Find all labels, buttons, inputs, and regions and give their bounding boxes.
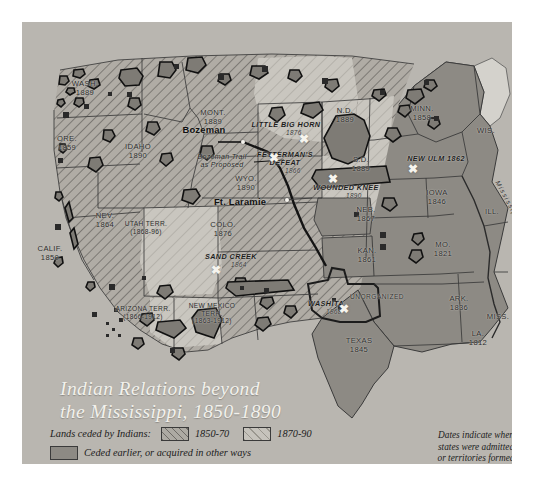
nebraska-grey bbox=[314, 198, 372, 236]
map-legend: Lands ceded by Indians: 1850-70 1870-90 … bbox=[50, 424, 402, 464]
legend-row-ceded: Lands ceded by Indians: 1850-70 1870-90 bbox=[50, 424, 402, 443]
map-plate: WASH.1889 ORE.1859 CALIF.1850 NEV.1864 I… bbox=[22, 22, 512, 464]
legend-row-ceded-earlier: Ceded earlier, or acquired in other ways bbox=[50, 443, 402, 462]
legend-swatch-ceded-earlier bbox=[50, 446, 78, 460]
legend-ceded-label: Lands ceded by Indians: bbox=[50, 428, 151, 439]
map-note: Dates indicate when states were admitted… bbox=[424, 430, 512, 464]
city-dot-ft-laramie bbox=[285, 198, 289, 202]
legend-swatch-1870-90 bbox=[243, 427, 271, 441]
ceded-1870-90-c bbox=[140, 206, 222, 296]
legend-row-reservations: Indian reservations ✖ Key battles of the… bbox=[50, 462, 402, 464]
legend-period-2: 1870-90 bbox=[277, 428, 311, 439]
map-title-line1: Indian Relations beyond bbox=[60, 377, 390, 400]
map-title-line2: the Mississippi, 1850-1890 bbox=[60, 400, 390, 423]
city-dot-bozeman bbox=[241, 140, 245, 144]
map-title: Indian Relations beyond the Mississippi,… bbox=[60, 377, 390, 423]
legend-swatch-1850-70 bbox=[161, 427, 189, 441]
map-note-line2: states were admitted bbox=[424, 442, 512, 454]
map-note-line3: or territories formed bbox=[424, 453, 512, 464]
legend-period-1: 1850-70 bbox=[195, 428, 229, 439]
map-screenshot: WASH.1889 ORE.1859 CALIF.1850 NEV.1864 I… bbox=[0, 0, 534, 486]
legend-ceded-earlier-label: Ceded earlier, or acquired in other ways bbox=[84, 447, 251, 458]
map-note-line1: Dates indicate when bbox=[424, 430, 512, 442]
